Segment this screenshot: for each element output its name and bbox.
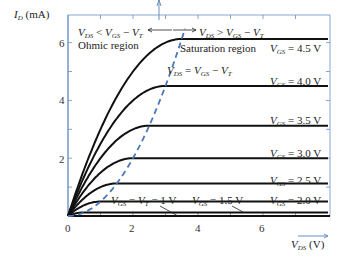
x-tick-0: 0: [65, 222, 71, 234]
y-axis-arrow-icon: [157, 0, 161, 20]
vgs-3.0-label: VGS = 3.0 V: [270, 147, 321, 163]
saturation-region-label: Saturation region: [180, 42, 256, 54]
vgs-1.0-label: VGS = VT = 1 V: [111, 194, 176, 210]
y-tick-4: 4: [59, 94, 65, 106]
y-tick-2: 2: [59, 153, 65, 165]
chart-canvas: [0, 0, 342, 271]
y-tick-6: 6: [59, 37, 65, 49]
vgs-2.5-label: VGS = 2.5 V: [270, 174, 321, 190]
x-tick-6: 6: [259, 222, 265, 234]
saturation-condition-label: VDS > VGS − VT: [199, 26, 264, 42]
ohmic-region-label: Ohmic region: [78, 39, 139, 51]
x-axis-label: VDS (V): [291, 238, 324, 254]
ohmic-arrow-icon: [148, 28, 172, 32]
x-tick-4: 4: [195, 222, 201, 234]
x-tick-2: 2: [129, 222, 135, 234]
vgs-1.5-label: VGS = 1.5 V: [192, 194, 243, 210]
vgs-3.5-label: VGS = 3.5 V: [270, 114, 321, 130]
vgs-4.5-label: VGS = 4.5 V: [270, 42, 321, 58]
boundary-label: VDS = VGS − VT: [167, 64, 232, 80]
y-axis-label: ID (mA): [14, 8, 49, 24]
vgs-2.0-label: VGS = 2.0 V: [270, 194, 321, 210]
vgs-4.0-label: VGS = 4.0 V: [270, 75, 321, 91]
